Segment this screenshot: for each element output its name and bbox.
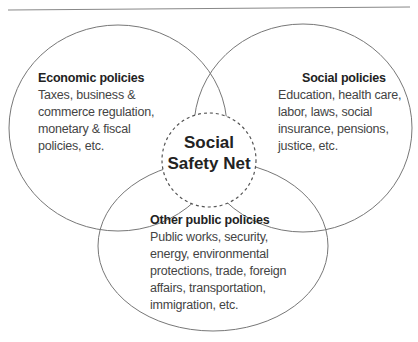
social-policies-title: Social policies	[278, 70, 401, 87]
other-line: protections, trade, foreign	[150, 263, 286, 280]
other-public-policies-label: Other public policies Public works, secu…	[150, 212, 286, 314]
economic-line: Taxes, business &	[38, 87, 154, 104]
other-line: immigration, etc.	[150, 297, 286, 314]
social-safety-net-label: Social Safety Net	[162, 132, 256, 174]
center-line-1: Social	[162, 132, 256, 153]
center-line-2: Safety Net	[162, 153, 256, 174]
economic-policies-label: Economic policies Taxes, business & comm…	[38, 70, 154, 155]
other-line: Public works, security,	[150, 229, 286, 246]
economic-line: commerce regulation,	[38, 104, 154, 121]
top-rule	[8, 7, 410, 10]
other-line: energy, environmental	[150, 246, 286, 263]
social-policies-label: Social policies Education, health care, …	[278, 70, 401, 155]
other-line: affairs, transportation,	[150, 280, 286, 297]
economic-policies-title: Economic policies	[38, 70, 154, 87]
social-line: justice, etc.	[278, 138, 401, 155]
social-line: insurance, pensions,	[278, 121, 401, 138]
social-line: Education, health care,	[278, 87, 401, 104]
economic-line: monetary & fiscal	[38, 121, 154, 138]
economic-line: policies, etc.	[38, 138, 154, 155]
social-line: labor, laws, social	[278, 104, 401, 121]
other-public-policies-title: Other public policies	[150, 212, 286, 229]
